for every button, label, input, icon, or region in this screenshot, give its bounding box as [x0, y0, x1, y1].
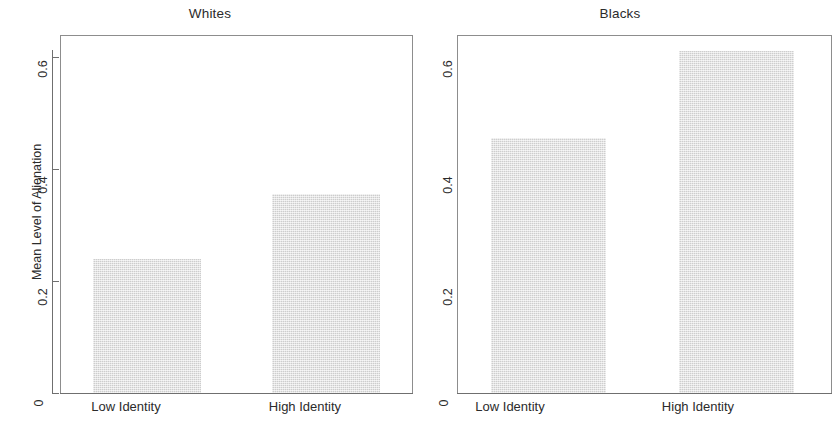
bar-chart-figure: Whites Mean Level of Alienation 0.6 0.4 … [0, 0, 837, 435]
y-tick-label-0-6: 0.6 [441, 57, 455, 81]
x-tick-label-low-identity: Low Identity [36, 399, 216, 414]
y-tick-0 [53, 393, 59, 394]
x-tick-label-high-identity: High Identity [608, 399, 788, 414]
x-axis-line [60, 393, 413, 394]
x-tick-label-high-identity: High Identity [215, 399, 395, 414]
y-tick-label-0-4: 0.4 [36, 173, 50, 197]
y-tick-0-2 [53, 281, 59, 282]
y-tick-label-0-2: 0.2 [441, 285, 455, 309]
y-tick-label-0-2: 0.2 [36, 285, 50, 309]
bar-blacks-low-identity[interactable] [491, 138, 606, 393]
bar-blacks-high-identity[interactable] [679, 51, 794, 393]
x-axis-line [457, 393, 832, 394]
y-tick-label-0-4: 0.4 [441, 173, 455, 197]
panel-blacks: Blacks 0.6 0.4 0.2 0 Low Identity High I… [420, 0, 837, 435]
panel-title-whites: Whites [0, 6, 420, 21]
y-tick-0-6 [53, 57, 59, 58]
y-tick-label-0-6: 0.6 [36, 57, 50, 81]
bar-whites-low-identity[interactable] [93, 259, 201, 393]
bar-whites-high-identity[interactable] [272, 194, 380, 393]
panel-title-blacks: Blacks [420, 6, 820, 21]
plot-area-whites [60, 35, 413, 394]
y-axis-title: Mean Level of Alienation [30, 112, 44, 312]
panel-whites: Whites Mean Level of Alienation 0.6 0.4 … [0, 0, 420, 435]
x-tick-label-low-identity: Low Identity [420, 399, 600, 414]
y-tick-0-4 [53, 169, 59, 170]
y-axis-line [52, 50, 53, 394]
plot-area-blacks [457, 35, 832, 394]
